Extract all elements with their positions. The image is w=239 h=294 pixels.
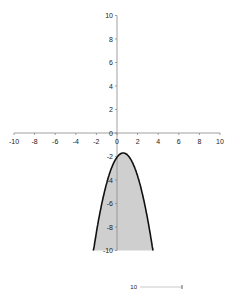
y-tick-label: 8	[109, 36, 113, 43]
parabola-chart: -10-8-6-4-20246810 -10-8-6-4-20246810 10	[0, 0, 239, 294]
y-tick-label: -6	[107, 200, 113, 207]
y-tick-label: 10	[105, 12, 113, 19]
x-axis-ticks: -10-8-6-4-20246810	[9, 133, 224, 145]
cropped-tick-label: 10	[130, 284, 137, 290]
x-tick-label: -2	[93, 138, 99, 145]
x-tick-label: 6	[177, 138, 181, 145]
y-tick-label: -4	[107, 177, 113, 184]
x-tick-label: 0	[115, 138, 119, 145]
y-tick-label: -8	[107, 224, 113, 231]
y-tick-label: -2	[107, 153, 113, 160]
x-tick-label: -6	[52, 138, 58, 145]
x-tick-label: 2	[136, 138, 140, 145]
x-tick-label: -4	[73, 138, 79, 145]
x-tick-label: -10	[9, 138, 19, 145]
x-tick-label: 4	[156, 138, 160, 145]
x-tick-label: -8	[31, 138, 37, 145]
y-tick-label: 0	[109, 130, 113, 137]
y-tick-label: 4	[109, 83, 113, 90]
y-tick-label: 2	[109, 106, 113, 113]
x-tick-label: 10	[216, 138, 224, 145]
cropped-second-chart: 10	[130, 284, 182, 290]
y-tick-label: 6	[109, 59, 113, 66]
y-tick-label: -10	[103, 247, 113, 254]
x-tick-label: 8	[197, 138, 201, 145]
